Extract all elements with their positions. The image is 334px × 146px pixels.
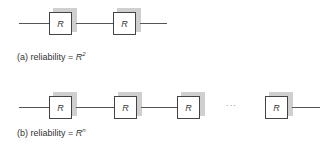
caption-text: (b) reliability = xyxy=(17,128,76,138)
block-label: R xyxy=(273,103,280,113)
wire xyxy=(141,107,177,108)
reliability-block: R xyxy=(177,96,200,119)
wire xyxy=(19,23,49,24)
ellipsis: ··· xyxy=(226,101,237,110)
block-label: R xyxy=(57,103,64,113)
block-label: R xyxy=(122,103,129,113)
caption-a: (a) reliability = R2 xyxy=(17,51,86,62)
caption-exponent: 2 xyxy=(82,51,85,57)
reliability-block: R xyxy=(49,96,72,119)
wire xyxy=(140,23,167,24)
wire xyxy=(76,23,113,24)
reliability-block: R xyxy=(114,96,137,119)
block-label: R xyxy=(57,19,64,29)
caption-text: (a) reliability = xyxy=(17,52,76,62)
wire xyxy=(292,107,320,108)
wire xyxy=(76,107,114,108)
wire xyxy=(19,107,49,108)
block-label: R xyxy=(185,103,192,113)
caption-exponent: n xyxy=(82,127,85,133)
reliability-block: R xyxy=(113,12,136,35)
reliability-block: R xyxy=(49,12,72,35)
block-label: R xyxy=(121,19,128,29)
caption-b: (b) reliability = Rn xyxy=(17,127,86,138)
reliability-block: R xyxy=(265,96,288,119)
